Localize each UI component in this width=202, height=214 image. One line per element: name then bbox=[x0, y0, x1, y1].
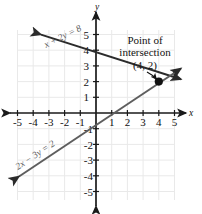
annotation-point-label: (4, 2) bbox=[133, 59, 157, 72]
x-tick-label: -2 bbox=[60, 116, 69, 128]
annotation-pointer-arrow bbox=[147, 72, 157, 79]
x-tick-label: 4 bbox=[156, 116, 162, 128]
intersection-point-marker bbox=[155, 78, 163, 86]
y-tick-label: 1 bbox=[84, 91, 90, 103]
annotation-title-line-2: intersection bbox=[119, 46, 171, 58]
coordinate-plane-svg: -5 -4 -3 -2 -1 1 2 3 4 5 5 4 3 2 1 -1 -2… bbox=[0, 0, 202, 214]
y-axis-label: y bbox=[94, 2, 100, 12]
x-tick-label: -3 bbox=[44, 116, 54, 128]
x-tick-label: 5 bbox=[172, 116, 178, 128]
x-axis-label: x bbox=[188, 108, 194, 118]
y-tick-label: -4 bbox=[84, 170, 94, 182]
y-tick-label: -5 bbox=[84, 186, 94, 198]
annotation-title-line-1: Point of bbox=[127, 34, 162, 46]
y-tick-label: 2 bbox=[84, 76, 90, 88]
y-tick-label: -2 bbox=[84, 139, 93, 151]
graph-figure: -5 -4 -3 -2 -1 1 2 3 4 5 5 4 3 2 1 -1 -2… bbox=[0, 0, 202, 214]
y-tick-label: 3 bbox=[84, 60, 90, 72]
x-tick-label: 2 bbox=[125, 116, 131, 128]
x-tick-label: -4 bbox=[29, 116, 39, 128]
x-tick-label: 1 bbox=[109, 116, 115, 128]
x-tick-label: 3 bbox=[140, 116, 146, 128]
y-tick-label: 5 bbox=[84, 29, 90, 41]
x-tick-label: -5 bbox=[13, 116, 23, 128]
y-tick-label: -3 bbox=[84, 154, 94, 166]
